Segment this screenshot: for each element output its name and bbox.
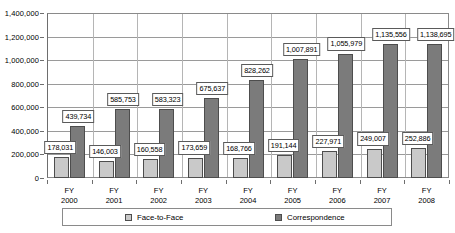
x-axis-tick-mark <box>360 180 361 184</box>
x-axis-tick-mark <box>315 180 316 184</box>
x-axis: FY2000FY2001FY2002FY2003FY2004FY2005FY20… <box>47 180 449 206</box>
x-axis-tick-mark <box>136 180 137 184</box>
data-label-face-to-face: 146,003 <box>89 145 121 158</box>
y-axis-tick-mark <box>40 178 44 179</box>
data-label-face-to-face: 249,007 <box>357 132 389 145</box>
x-axis-tick-label: FY2000 <box>61 186 78 206</box>
x-axis-tick-mark <box>226 180 227 184</box>
x-axis-tick-mark <box>181 180 182 184</box>
data-label-correspondence: 1,135,556 <box>372 28 410 41</box>
bar-correspondence <box>383 44 398 178</box>
data-label-correspondence: 1,055,979 <box>328 37 366 50</box>
x-axis-tick-label-line: 2003 <box>195 196 212 206</box>
data-label-correspondence: 828,262 <box>241 64 273 77</box>
x-axis-tick-label-line: 2002 <box>150 196 167 206</box>
y-axis-tick-label: 400,000 <box>11 126 39 135</box>
bar-correspondence <box>249 80 264 178</box>
x-axis-tick-label-line: 2001 <box>106 196 123 206</box>
bar-face-to-face <box>143 159 158 178</box>
x-axis-tick-label-line: FY <box>106 186 123 196</box>
x-axis-tick-label-line: 2008 <box>418 196 435 206</box>
x-axis-tick-label-line: 2004 <box>240 196 257 206</box>
bar-face-to-face <box>54 157 69 178</box>
legend-label: Correspondence <box>287 213 345 222</box>
x-axis-tick-label-line: FY <box>374 186 391 196</box>
x-axis-tick-label-line: 2000 <box>61 196 78 206</box>
data-label-face-to-face: 191,144 <box>268 139 300 152</box>
y-axis-tick-mark <box>40 154 44 155</box>
x-axis-tick-label-line: 2006 <box>329 196 346 206</box>
y-axis: 0200,000400,000600,000800,0001,000,0001,… <box>0 0 47 233</box>
x-axis-tick-mark <box>270 180 271 184</box>
bar-face-to-face <box>411 148 426 178</box>
bar-correspondence <box>427 44 442 178</box>
y-axis-tick-mark <box>40 37 44 38</box>
x-axis-tick-mark <box>92 180 93 184</box>
x-axis-tick-label-line: FY <box>195 186 212 196</box>
x-axis-tick-label: FY2008 <box>418 186 435 206</box>
bar-face-to-face <box>233 158 248 178</box>
bar-face-to-face <box>322 151 337 178</box>
bar-face-to-face <box>367 149 382 178</box>
data-label-correspondence: 1,138,695 <box>417 28 455 41</box>
y-axis-tick-label: 600,000 <box>11 103 39 112</box>
legend-label: Face-to-Face <box>137 213 183 222</box>
x-axis-tick-label-line: FY <box>418 186 435 196</box>
y-axis-tick-label: 800,000 <box>11 79 39 88</box>
data-label-face-to-face: 173,659 <box>178 141 210 154</box>
bar-face-to-face <box>188 158 203 178</box>
y-axis-tick-label: 1,400,000 <box>5 9 39 18</box>
x-axis-tick-label: FY2006 <box>329 186 346 206</box>
x-axis-tick-mark <box>404 180 405 184</box>
legend-entry[interactable]: Correspondence <box>275 213 345 222</box>
data-label-correspondence: 583,323 <box>152 93 184 106</box>
x-axis-tick-label-line: FY <box>329 186 346 196</box>
y-axis-tick-label: 1,000,000 <box>5 56 39 65</box>
x-axis-tick-label-line: FY <box>150 186 167 196</box>
legend-entry[interactable]: Face-to-Face <box>125 213 183 222</box>
data-label-face-to-face: 227,971 <box>312 135 344 148</box>
bar-correspondence <box>338 54 353 178</box>
data-label-face-to-face: 160,558 <box>134 143 166 156</box>
x-axis-tick-label-line: FY <box>240 186 257 196</box>
y-axis-tick-mark <box>40 131 44 132</box>
legend-swatch-icon <box>125 214 132 221</box>
legend-swatch-icon <box>275 214 282 221</box>
y-axis-tick-mark <box>40 60 44 61</box>
x-axis-tick-label-line: FY <box>284 186 301 196</box>
x-axis-tick-label: FY2001 <box>106 186 123 206</box>
bar-chart: 0200,000400,000600,000800,0001,000,0001,… <box>0 0 455 233</box>
data-label-correspondence: 585,753 <box>107 93 139 106</box>
bar-face-to-face <box>99 161 114 178</box>
bar-correspondence <box>293 59 308 178</box>
bars-layer: 178,031439,734146,003585,753160,558583,3… <box>47 13 449 178</box>
y-axis-tick-mark <box>40 107 44 108</box>
y-axis-tick-label: 0 <box>35 174 39 183</box>
x-axis-tick-label-line: 2005 <box>284 196 301 206</box>
y-axis-tick-mark <box>40 13 44 14</box>
data-label-face-to-face: 178,031 <box>44 141 76 154</box>
x-axis-tick-label: FY2003 <box>195 186 212 206</box>
data-label-correspondence: 675,637 <box>196 82 228 95</box>
data-label-correspondence: 439,734 <box>62 110 94 123</box>
data-label-correspondence: 1,007,891 <box>283 43 321 56</box>
x-axis-tick-label: FY2004 <box>240 186 257 206</box>
y-axis-tick-label: 1,200,000 <box>5 32 39 41</box>
bar-correspondence <box>115 109 130 178</box>
x-axis-tick-label: FY2007 <box>374 186 391 206</box>
x-axis-tick-label: FY2002 <box>150 186 167 206</box>
chart-legend: Face-to-FaceCorrespondence <box>62 208 392 226</box>
x-axis-tick-mark <box>449 180 450 184</box>
x-axis-tick-label-line: FY <box>61 186 78 196</box>
bar-face-to-face <box>277 155 292 178</box>
x-axis-tick-label-line: 2007 <box>374 196 391 206</box>
x-axis-tick-mark <box>47 180 48 184</box>
y-axis-tick-mark <box>40 84 44 85</box>
bar-correspondence <box>204 98 219 178</box>
data-label-face-to-face: 168,766 <box>223 142 255 155</box>
y-axis-tick-label: 200,000 <box>11 150 39 159</box>
data-label-face-to-face: 252,886 <box>402 132 434 145</box>
x-axis-tick-label: FY2005 <box>284 186 301 206</box>
